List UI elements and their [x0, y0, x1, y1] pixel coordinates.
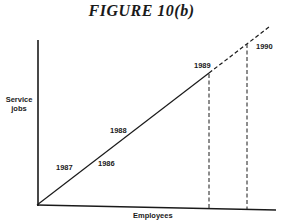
- label-1988: 1988: [110, 126, 127, 135]
- diagram-canvas: 1987 1986 1988 1989 1990: [0, 0, 283, 222]
- label-1987: 1987: [56, 163, 73, 172]
- y-axis-label: Service jobs: [4, 95, 34, 113]
- label-1989: 1989: [194, 61, 211, 70]
- x-axis-label: Employees: [133, 211, 173, 220]
- label-1990: 1990: [256, 42, 273, 51]
- label-1986: 1986: [98, 159, 115, 168]
- trend-line: [37, 73, 209, 205]
- x-axis: [37, 205, 276, 210]
